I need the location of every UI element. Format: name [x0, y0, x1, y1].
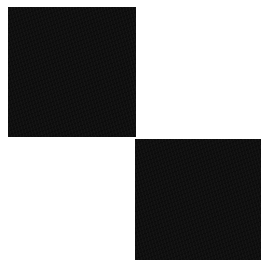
black-square-bottom-right	[135, 139, 261, 260]
black-square-top-left	[8, 7, 136, 137]
